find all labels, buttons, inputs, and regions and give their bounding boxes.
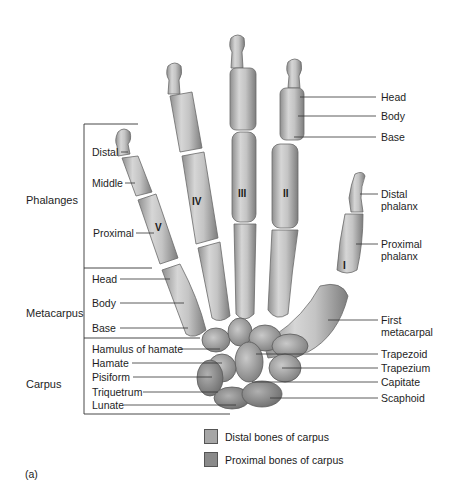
label-metacarpal-body: Body [92,297,116,309]
label-hamulus-of-hamate: Hamulus of hamate [92,343,183,355]
label-first-metacarpal-line1: First [381,314,401,326]
label-trapezoid: Trapezoid [381,348,427,360]
numeral-digit-ii: II [283,188,289,199]
label-proximal-phalanx-line1: Proximal [381,238,422,250]
numeral-digit-iii: III [238,188,246,199]
numeral-digit-i: I [343,260,346,271]
label-distal-phalanx-line1: Distal [381,188,407,200]
label-middle-phalanx: Middle [92,177,123,189]
label-distal-phalanx-left: Distal [92,146,118,158]
label-capitate: Capitate [381,376,420,388]
label-proximal-phalanx-left: Proximal [93,227,134,239]
group-label-carpus: Carpus [26,378,61,391]
numeral-digit-iv: IV [192,196,201,207]
numeral-digit-v: V [155,222,162,233]
label-scaphoid: Scaphoid [381,392,425,404]
label-metacarpal-head: Head [92,273,117,285]
label-first-metacarpal-line2: metacarpal [381,326,433,338]
label-hamate: Hamate [92,357,129,369]
figure-caption: (a) [25,468,38,480]
label-proximal-phalanx-line2: phalanx [381,250,418,262]
label-distal-phalanx-line2: phalanx [381,200,418,212]
label-phalanx-base-right: Base [381,131,405,143]
hand-skeleton-figure: Phalanges Metacarpus Carpus Distal Middl… [0,0,449,496]
label-metacarpal-base: Base [92,322,116,334]
label-pisiform: Pisiform [92,371,130,383]
legend-item-distal-carpus: Distal bones of carpus [204,429,329,444]
label-phalanx-head-right: Head [381,91,406,103]
legend-swatch-distal [204,429,218,444]
legend-swatch-proximal [204,452,218,467]
legend-item-proximal-carpus: Proximal bones of carpus [204,452,343,467]
legend-label-proximal: Proximal bones of carpus [225,454,343,466]
group-label-phalanges: Phalanges [26,194,78,207]
group-label-metacarpus: Metacarpus [26,307,83,320]
legend-label-distal: Distal bones of carpus [225,431,329,443]
label-phalanx-body-right: Body [381,110,405,122]
digit-iii [230,35,256,319]
label-triquetrum: Triquetrum [92,386,142,398]
label-trapezium: Trapezium [381,362,430,374]
label-lunate: Lunate [92,399,124,411]
